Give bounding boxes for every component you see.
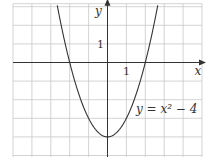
- y-axis-label: y: [94, 4, 102, 18]
- parabola-chart: x y 1 1 y = x² − 4: [0, 0, 212, 157]
- x-axis-label: x: [195, 64, 202, 78]
- equation-label: y = x² − 4: [135, 102, 197, 116]
- x-tick-label-1: 1: [123, 65, 130, 78]
- y-axis-arrow-icon: [105, 0, 111, 6]
- y-tick-label-1: 1: [97, 38, 104, 51]
- axes: [13, 0, 206, 157]
